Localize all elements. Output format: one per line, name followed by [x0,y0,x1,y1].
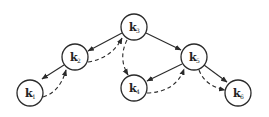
node-k1-subscript: 1 [32,93,36,100]
edge-k5-k6-solid [204,65,227,82]
node-k1: k 1 [17,80,43,106]
node-k2-subscript: 2 [77,57,81,64]
node-k3-subscript: 3 [136,27,140,34]
tree-diagram: k 3 k 2 k 1 k 4 k 5 k 6 [0,0,269,117]
edge-k5-k4-solid [147,64,182,81]
node-k2: k 2 [62,44,88,70]
node-k6: k 6 [225,80,251,106]
node-k5: k 5 [181,44,207,70]
edge-k3-k5-solid [146,33,181,50]
node-k5-subscript: 5 [196,57,200,64]
node-k6-subscript: 6 [240,93,244,100]
node-k4-subscript: 4 [136,88,140,95]
edge-k3-k2-solid [88,33,122,51]
edge-k3-k4-dashed [123,40,128,75]
edge-k5-k6-dashed [199,70,225,90]
node-k3: k 3 [121,14,147,40]
node-k4: k 4 [121,75,147,101]
edge-k1-k2-dashed [43,70,66,97]
edge-k2-k1-solid [42,65,64,79]
